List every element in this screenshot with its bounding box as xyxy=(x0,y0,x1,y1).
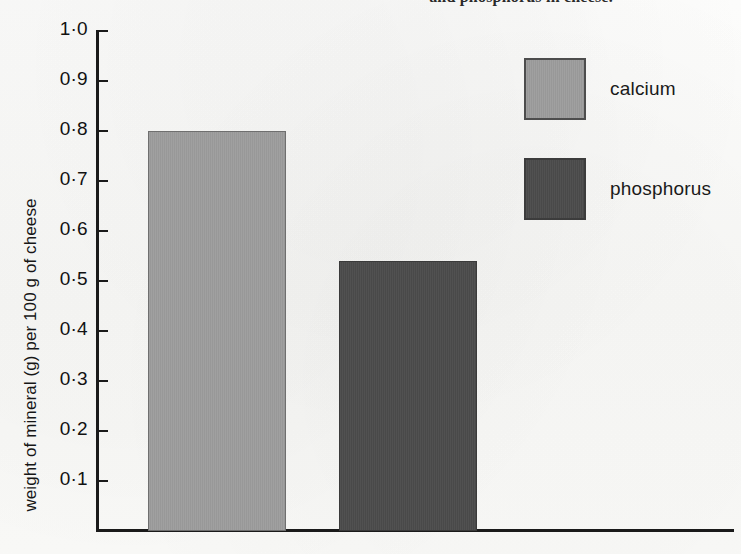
y-axis-tick-mark xyxy=(99,480,108,482)
y-axis-tick-mark xyxy=(99,430,108,432)
y-axis-tick-mark xyxy=(99,330,108,332)
bar-calcium xyxy=(148,131,286,531)
y-axis-tick-mark xyxy=(99,80,108,82)
y-axis-tick-label: 0·7 xyxy=(30,168,88,190)
y-axis-tick-label: 0·2 xyxy=(30,418,88,440)
y-axis-tick-label: 0·5 xyxy=(30,268,88,290)
legend-item-calcium: calcium xyxy=(524,52,711,126)
y-axis-tick-mark xyxy=(99,230,108,232)
legend-swatch-calcium xyxy=(524,58,586,120)
y-axis-tick-label: 0·8 xyxy=(30,118,88,140)
y-axis-tick-mark xyxy=(99,380,108,382)
bar-phosphorus xyxy=(339,261,477,531)
y-axis-tick-mark xyxy=(99,30,108,32)
legend-label-calcium: calcium xyxy=(610,78,676,100)
y-axis-tick-label: 0·1 xyxy=(30,468,88,490)
y-axis-tick-label: 1·0 xyxy=(30,18,88,40)
legend: calcium phosphorus xyxy=(524,52,711,226)
legend-swatch-phosphorus xyxy=(524,158,586,220)
y-axis-tick-label: 0·9 xyxy=(30,68,88,90)
y-axis-tick-label: 0·3 xyxy=(30,368,88,390)
y-axis-tick-label: 0·4 xyxy=(30,318,88,340)
legend-item-phosphorus: phosphorus xyxy=(524,152,711,226)
y-axis-tick-label: 0·6 xyxy=(30,218,88,240)
y-axis-tick-mark xyxy=(99,180,108,182)
y-axis-tick-mark xyxy=(99,280,108,282)
y-axis-tick-mark xyxy=(99,130,108,132)
legend-label-phosphorus: phosphorus xyxy=(610,178,711,200)
